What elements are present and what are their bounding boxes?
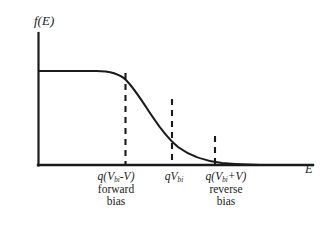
tick-expression-reverse: q(Vbi+V) [206, 170, 247, 182]
tick-label-forward-bias: q(Vbi-V) forward bias [78, 170, 154, 208]
fe-vs-energy-figure: f(E) E q(Vbi-V) forward bias qVbi q(Vbi+… [0, 0, 327, 238]
bias-text-reverse-line2: bias [188, 195, 264, 207]
tick-expression-forward: q(Vbi-V) [98, 170, 135, 182]
bias-text-forward-line1: forward [78, 183, 154, 195]
bias-text-forward-line2: bias [78, 195, 154, 207]
y-axis-label: f(E) [34, 14, 54, 28]
fe-curve [39, 71, 292, 165]
tick-expression-builtin: qVbi [165, 170, 183, 182]
bias-text-reverse-line1: reverse [188, 183, 264, 195]
x-axis-label: E [305, 163, 313, 177]
plot-canvas [0, 0, 327, 238]
tick-label-reverse-bias: q(Vbi+V) reverse bias [188, 170, 264, 208]
